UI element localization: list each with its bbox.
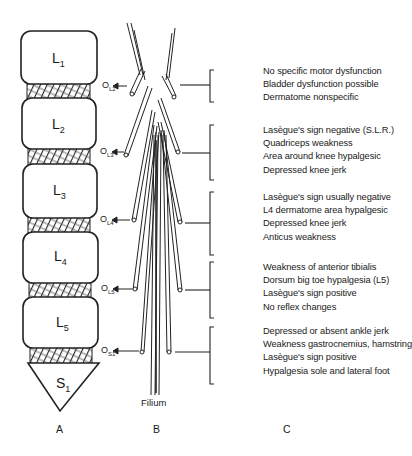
symptom-group-s1: Depressed or absent ankle jerk Weakness … [263, 325, 412, 378]
outlet-label-l2: OL2 [102, 80, 116, 92]
symptom-line: No specific motor dysfunction [263, 65, 382, 78]
symptom-line: Lasègue's sign usually negative [263, 191, 391, 204]
symptom-line: Depressed knee jerk [263, 164, 394, 177]
symptom-group-l5: Weakness of anterior tibialis Dorsum big… [263, 261, 389, 314]
symptom-line: Dorsum big toe hypalgesia (L5) [263, 274, 389, 287]
column-label-c: C [283, 423, 291, 435]
outlet-label-l3: OL3 [100, 146, 114, 158]
vertebra-label-s1: S1 [56, 375, 70, 394]
symptom-line: Depressed knee jerk [263, 217, 391, 230]
vertebra-label-l3: L3 [53, 182, 66, 201]
vertebra-label-l1: L1 [52, 50, 65, 69]
vertebra-label-l5: L5 [56, 314, 69, 333]
vertebra-label-l2: L2 [52, 116, 65, 135]
symptom-group-l3: Lasègue's sign negative (S.L.R.) Quadric… [263, 124, 394, 177]
symptom-line: Quadriceps weakness [263, 137, 394, 150]
outlet-label-l5: OL5 [101, 283, 115, 295]
symptom-line: Weakness gastrocnemius, hamstring [263, 338, 412, 351]
outlet-label-l4: OL4 [100, 214, 114, 226]
symptom-line: Weakness of anterior tibialis [263, 261, 389, 274]
symptom-line: Lasègue's sign positive [263, 287, 389, 300]
symptom-line: Anticus weakness [263, 231, 391, 244]
column-label-a: A [56, 423, 63, 435]
symptom-line: Area around knee hypalgesic [263, 150, 394, 163]
symptom-line: Lasègue's sign negative (S.L.R.) [263, 124, 394, 137]
symptom-line: L4 dermatome area hypalgesic [263, 204, 391, 217]
nerve-roots [124, 23, 182, 395]
filium-label: Filium [141, 397, 166, 408]
brackets [175, 70, 214, 384]
symptom-line: Depressed or absent ankle jerk [263, 325, 412, 338]
symptom-group-l2: No specific motor dysfunction Bladder dy… [263, 65, 382, 105]
column-label-b: B [153, 423, 160, 435]
symptom-line: Lasègue's sign positive [263, 351, 412, 364]
outlet-label-s1: OS1 [101, 345, 115, 357]
symptom-line: No reflex changes [263, 301, 389, 314]
symptom-line: Hypalgesia sole and lateral foot [263, 365, 412, 378]
symptom-line: Bladder dysfunction possible [263, 78, 382, 91]
symptom-group-l4: Lasègue's sign usually negative L4 derma… [263, 191, 391, 244]
vertebra-label-l4: L4 [54, 248, 67, 267]
symptom-line: Dermatome nonspecific [263, 91, 382, 104]
